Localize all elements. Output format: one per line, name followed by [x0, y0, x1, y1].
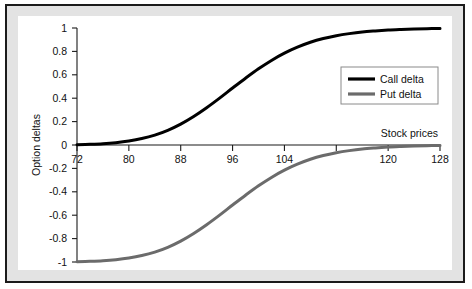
x-tick-label: 120 [379, 153, 397, 165]
y-axis-ticks: 10.80.60.40.20-0.2-0.4-0.6-0.8-1 [49, 22, 77, 268]
y-tick-label: 0.2 [52, 115, 67, 127]
x-tick-label: 104 [276, 153, 294, 165]
y-tick-label: -1 [58, 256, 67, 268]
y-tick-label: 0.8 [52, 45, 67, 57]
x-tick-label: 80 [123, 153, 135, 165]
x-tick-label: 96 [227, 153, 239, 165]
y-tick-label: -0.4 [49, 185, 67, 197]
y-tick-label: 0.4 [52, 92, 67, 104]
y-tick-label: 1 [61, 22, 67, 34]
chart-legend[interactable]: Call deltaPut delta [341, 67, 438, 104]
legend-label-put-delta[interactable]: Put delta [380, 88, 422, 100]
y-tick-label: -0.6 [49, 209, 67, 221]
x-axis-title: Stock prices [381, 127, 438, 139]
legend-label-call-delta[interactable]: Call delta [380, 73, 424, 85]
x-tick-label: 128 [431, 153, 449, 165]
y-tick-label: -0.8 [49, 232, 67, 244]
y-axis-title: Option deltas [30, 114, 42, 176]
option-delta-chart: 10.80.60.40.20-0.2-0.4-0.6-0.8-1 7280889… [0, 0, 472, 289]
y-tick-label: 0.6 [52, 68, 67, 80]
chart-canvas: 10.80.60.40.20-0.2-0.4-0.6-0.8-1 7280889… [0, 0, 472, 289]
x-tick-label: 88 [175, 153, 187, 165]
y-tick-label: 0 [61, 139, 67, 151]
y-tick-label: -0.2 [49, 162, 67, 174]
